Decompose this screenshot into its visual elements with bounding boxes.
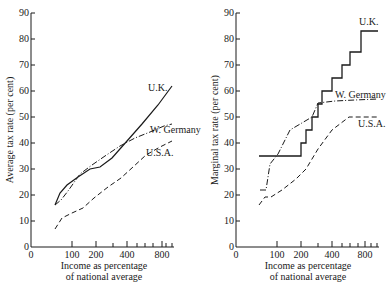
left-x-axis-title-line2: of national average (66, 271, 143, 282)
x-tick-label: 800 (155, 249, 170, 260)
left-series-uk (55, 86, 172, 205)
left-y-tick-labels: 90 80 70 60 50 40 30 20 10 0 (19, 7, 29, 252)
left-x-tick-labels: 0 100 200 400 800 (29, 249, 170, 260)
right-chart: 90 80 70 60 50 40 30 20 10 0 0 100 200 (209, 7, 386, 282)
x-tick-label: 0 (29, 249, 34, 260)
y-tick-label: 10 (19, 215, 29, 226)
x-tick-label: 400 (325, 249, 340, 260)
right-label-usa: U.S.A. (358, 118, 386, 129)
y-tick-label: 60 (224, 85, 234, 96)
y-tick-label: 20 (224, 189, 234, 200)
right-y-tick-labels: 90 80 70 60 50 40 30 20 10 0 (224, 7, 234, 252)
left-y-ticks (31, 13, 35, 221)
y-tick-label: 50 (224, 111, 234, 122)
y-tick-label: 30 (19, 163, 29, 174)
right-label-uk: U.K. (359, 16, 378, 27)
x-tick-label: 200 (294, 249, 309, 260)
left-y-axis-title: Average tax rate (per cent) (4, 77, 16, 183)
y-tick-label: 90 (19, 7, 29, 18)
left-x-ticks (72, 241, 172, 247)
right-x-ticks (277, 241, 377, 247)
y-tick-label: 40 (224, 137, 234, 148)
right-x-axis-title-line2: of national average (270, 271, 347, 282)
x-tick-label: 400 (120, 249, 135, 260)
y-tick-label: 10 (224, 215, 234, 226)
right-series-usa (259, 117, 378, 205)
y-tick-label: 80 (19, 33, 29, 44)
right-label-wgermany: W. Germany (335, 89, 386, 100)
y-tick-label: 70 (224, 59, 234, 70)
left-series-wgermany (55, 124, 172, 205)
x-tick-label: 800 (358, 249, 373, 260)
y-tick-label: 20 (19, 189, 29, 200)
left-x-axis-title-line1: Income as percentage (61, 260, 148, 271)
y-tick-label: 80 (224, 33, 234, 44)
left-label-wgermany: W. Germany (150, 124, 201, 135)
left-chart: 90 80 70 60 50 40 30 20 10 0 0 100 (4, 7, 201, 282)
y-tick-label: 40 (19, 137, 29, 148)
x-tick-label: 100 (270, 249, 285, 260)
y-tick-label: 30 (224, 163, 234, 174)
right-series-wgermany (260, 99, 378, 190)
left-label-uk: U.K. (148, 82, 167, 93)
right-y-axis-title: Marginal tax rate (per cent) (209, 75, 221, 185)
x-tick-label: 0 (234, 249, 239, 260)
y-tick-label: 50 (19, 111, 29, 122)
x-tick-label: 200 (89, 249, 104, 260)
y-tick-label: 70 (19, 59, 29, 70)
right-x-tick-labels: 0 100 200 400 800 (234, 249, 373, 260)
x-tick-label: 100 (65, 249, 80, 260)
y-tick-label: 60 (19, 85, 29, 96)
right-y-ticks (236, 13, 240, 221)
y-tick-label: 90 (224, 7, 234, 18)
right-x-axis-title-line1: Income as percentage (265, 260, 352, 271)
chart-canvas: 90 80 70 60 50 40 30 20 10 0 0 100 (0, 0, 391, 287)
left-label-usa: U.S.A. (146, 147, 174, 158)
